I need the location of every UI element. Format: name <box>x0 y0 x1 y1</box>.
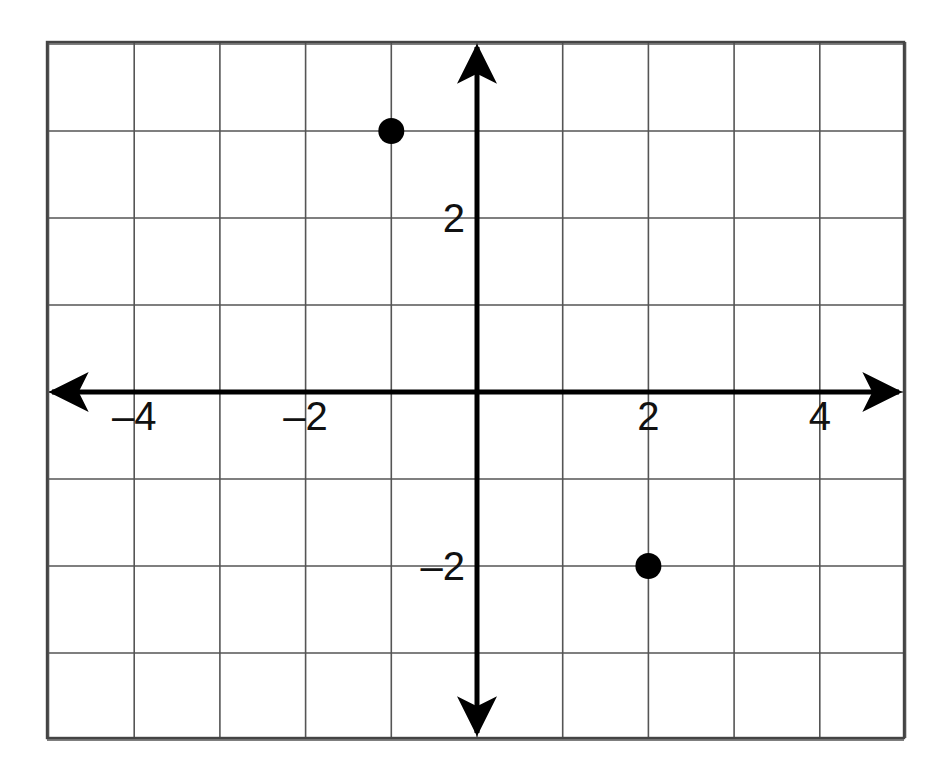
plot-background <box>0 0 944 778</box>
x-tick-label: –4 <box>112 394 157 438</box>
coordinate-plane-svg: –4–224 2–2 <box>0 0 944 778</box>
x-tick-label: 2 <box>637 394 659 438</box>
x-tick-label: 4 <box>809 394 831 438</box>
data-point-point-2 <box>635 553 661 579</box>
data-point-point-1 <box>378 118 404 144</box>
y-tick-label: 2 <box>443 196 465 240</box>
coordinate-plane-figure: –4–224 2–2 <box>0 0 944 778</box>
x-tick-label: –2 <box>283 394 328 438</box>
y-tick-label: –2 <box>421 544 466 588</box>
